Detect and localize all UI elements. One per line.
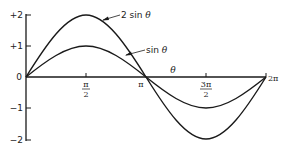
y-label-minus2: −2 xyxy=(10,135,23,145)
x-axis-title: θ xyxy=(170,65,176,75)
x-label-three-half-pi: 3π 2 xyxy=(200,80,212,99)
label-sin-theta: sin θ xyxy=(146,45,168,55)
arrowhead-2sin xyxy=(102,17,109,21)
x-label-pi: π xyxy=(138,80,143,89)
svg-text:π: π xyxy=(83,80,88,89)
svg-text:2: 2 xyxy=(83,90,88,99)
arrowhead-sin xyxy=(125,52,132,56)
sine-chart: +2 +1 0 −1 −2 π 2 π 3π 2 2π θ 2 sin θ si… xyxy=(0,0,286,156)
svg-text:2: 2 xyxy=(203,90,208,99)
y-label-plus1: +1 xyxy=(10,41,23,51)
y-label-zero: 0 xyxy=(16,72,22,82)
x-label-half-pi: π 2 xyxy=(82,80,90,99)
svg-text:3π: 3π xyxy=(201,80,211,89)
y-label-minus1: −1 xyxy=(10,103,23,113)
label-2sin-theta: 2 sin θ xyxy=(121,10,151,20)
y-label-plus2: +2 xyxy=(10,10,23,20)
x-label-two-pi: 2π xyxy=(268,74,278,83)
